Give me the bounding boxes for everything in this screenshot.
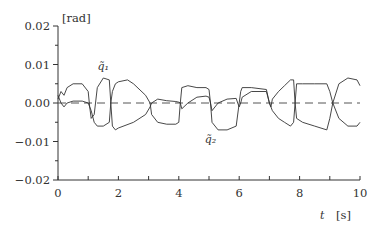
y-tick-label: 0.00 [24, 96, 50, 110]
x-axis: 0246810 [54, 176, 367, 200]
series-q2-line [58, 80, 360, 130]
y-unit-label: [rad] [62, 11, 91, 25]
y-tick-label: −0.01 [15, 135, 50, 149]
annotation-q2: q̃₂ [205, 133, 216, 146]
x-tick-label: 2 [115, 186, 122, 200]
x-tick-label: 8 [296, 186, 303, 200]
chart: −0.02−0.010.000.010.02 0246810 [rad] t [… [0, 0, 387, 229]
x-tick-label: 0 [54, 186, 61, 200]
x-axis-label: t [320, 209, 325, 222]
y-tick-label: −0.02 [15, 173, 50, 187]
x-tick-label: 10 [353, 186, 368, 200]
y-tick-label: 0.01 [24, 58, 50, 72]
series-q1-line [58, 78, 360, 130]
x-tick-label: 6 [236, 186, 243, 200]
annotation-q1: q̃₁ [98, 60, 109, 73]
x-unit-label: [s] [336, 208, 351, 222]
y-axis: −0.02−0.010.000.010.02 [15, 19, 58, 187]
x-tick-label: 4 [175, 186, 182, 200]
y-tick-label: 0.02 [24, 19, 50, 33]
